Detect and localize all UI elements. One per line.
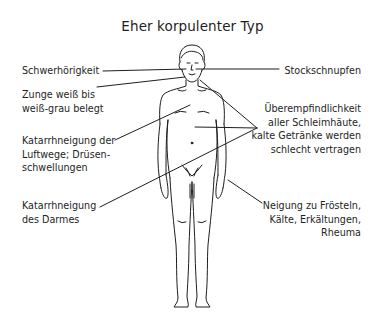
label-line: weiß-grau belegt bbox=[22, 102, 104, 116]
label-line: kalte Getränke werden bbox=[252, 129, 361, 143]
label-line: schwellungen bbox=[22, 161, 115, 175]
legs-outline bbox=[170, 178, 214, 307]
label-line: Neigung zu Frösteln, bbox=[263, 199, 361, 213]
diagram-title: Eher korpulenter Typ bbox=[0, 18, 385, 34]
label-line: Zunge weiß bis bbox=[22, 88, 104, 102]
label-line: Katarrhneigung der bbox=[22, 134, 115, 148]
label-line: schlecht vertragen bbox=[252, 143, 361, 157]
label-schwerhoerigkeit: Schwerhörigkeit bbox=[22, 64, 99, 78]
label-line: Schwerhörigkeit bbox=[22, 64, 99, 78]
label-line: des Darmes bbox=[22, 213, 96, 227]
label-line: Katarrhneigung bbox=[22, 199, 96, 213]
torso-outline bbox=[160, 80, 225, 178]
label-line: Überempfindlichkeit bbox=[252, 102, 361, 116]
label-line: Luftwege; Drüsen- bbox=[22, 148, 115, 162]
label-line: Rheuma bbox=[263, 226, 361, 240]
head-outline bbox=[179, 45, 205, 82]
label-darm: Katarrhneigung des Darmes bbox=[22, 199, 96, 226]
label-stockschnupfen: Stockschnupfen bbox=[284, 64, 361, 78]
label-line: aller Schleimhäute, bbox=[252, 116, 361, 130]
label-line: Stockschnupfen bbox=[284, 64, 361, 78]
label-froesteln: Neigung zu Frösteln, Kälte, Erkältungen,… bbox=[263, 199, 361, 240]
label-zunge: Zunge weiß bis weiß-grau belegt bbox=[22, 88, 104, 115]
label-luftwege: Katarrhneigung der Luftwege; Drüsen- sch… bbox=[22, 134, 115, 175]
label-schleimhaeute: Überempfindlichkeit aller Schleimhäute, … bbox=[252, 102, 361, 156]
label-line: Kälte, Erkältungen, bbox=[263, 213, 361, 227]
